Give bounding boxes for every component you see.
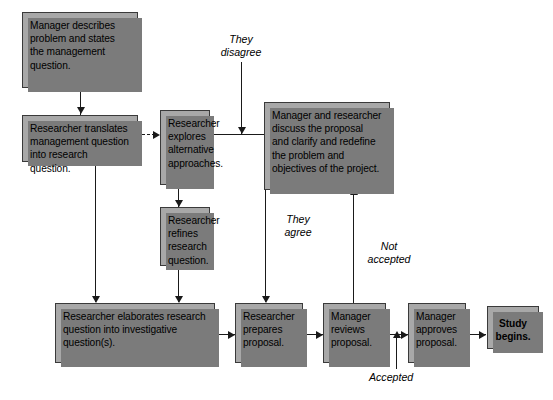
connector-they-agree-top xyxy=(265,190,266,191)
arrowhead-accepted xyxy=(393,331,401,338)
connector-accepted xyxy=(396,336,397,369)
node-label: Researcher prepares proposal. xyxy=(243,310,295,350)
connector-discuss-to-explores xyxy=(209,134,265,135)
node-researcher-translates[interactable]: Researcher translates management questio… xyxy=(22,115,138,162)
flowchart-canvas: Manager describes problem and states the… xyxy=(0,0,553,400)
arrowhead-they-agree xyxy=(262,296,270,303)
node-manager-describes[interactable]: Manager describes problem and states the… xyxy=(22,12,138,88)
arrowhead-reviews-to-approves xyxy=(401,331,408,339)
arrowhead-translates-to-explores xyxy=(153,131,160,139)
connector-they-disagree xyxy=(241,62,242,134)
node-researcher-refines[interactable]: Researcher refines research question. xyxy=(160,207,210,266)
node-manager-approves[interactable]: Manager approves proposal. xyxy=(408,303,466,363)
connector-they-agree xyxy=(265,190,266,302)
arrowhead-describes-to-translates xyxy=(77,107,85,114)
node-researcher-prepares[interactable]: Researcher prepares proposal. xyxy=(235,303,303,363)
node-label: Manager approves proposal. xyxy=(416,310,458,350)
arrowhead-refines-to-elaborates xyxy=(175,296,183,303)
arrowhead-approves-to-study xyxy=(479,331,486,339)
arrowhead-explores-to-refines xyxy=(175,200,183,207)
node-manager-researcher-discuss[interactable]: Manager and researcher discuss the propo… xyxy=(264,102,390,190)
node-label: Researcher refines research question. xyxy=(168,214,202,267)
node-label: Manager and researcher discuss the propo… xyxy=(272,109,382,175)
edge-label-not-accepted: Not accepted xyxy=(355,240,423,266)
node-label: Researcher translates management questio… xyxy=(30,122,130,175)
arrowhead-prepares-to-reviews xyxy=(316,331,323,339)
node-study-begins[interactable]: Study begins. xyxy=(487,306,539,349)
arrowhead-elaborates-to-prepares xyxy=(228,331,235,339)
node-label: Manager describes problem and states the… xyxy=(30,19,130,72)
node-label: Study begins. xyxy=(495,317,531,343)
node-manager-reviews[interactable]: Manager reviews proposal. xyxy=(323,303,386,363)
node-researcher-elaborates[interactable]: Researcher elaborates research question … xyxy=(55,303,215,363)
node-label: Researcher elaborates research question … xyxy=(63,310,207,350)
node-label: Researcher explores alternative approach… xyxy=(168,117,202,170)
edge-label-accepted: Accepted xyxy=(369,371,439,384)
edge-label-they-disagree: They disagree xyxy=(205,33,277,59)
node-label: Manager reviews proposal. xyxy=(331,310,378,350)
edge-label-they-agree: They agree xyxy=(271,213,325,239)
connector-translates-to-elaborates xyxy=(95,162,96,302)
node-researcher-explores[interactable]: Researcher explores alternative approach… xyxy=(160,110,210,185)
arrowhead-translates-to-elaborates xyxy=(92,296,100,303)
arrowhead-they-disagree xyxy=(238,127,246,134)
